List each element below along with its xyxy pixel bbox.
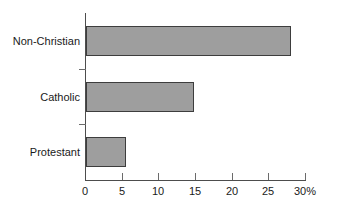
x-axis-tick-label: 5 — [119, 185, 125, 198]
x-axis-tick-label: 10 — [152, 185, 164, 198]
category-label: Protestant — [30, 146, 80, 159]
y-axis-tick — [79, 69, 86, 70]
x-axis-tick — [85, 173, 86, 181]
bar — [86, 26, 291, 56]
x-axis-tick — [268, 173, 269, 180]
x-axis-tick-label: 15 — [189, 185, 201, 198]
x-axis-line — [85, 180, 306, 181]
bar — [86, 82, 194, 112]
bar — [86, 137, 126, 167]
category-label: Catholic — [40, 91, 80, 104]
x-axis-tick — [158, 173, 159, 180]
x-axis-tick-label: 0 — [82, 185, 88, 198]
y-axis-tick — [79, 124, 86, 125]
x-axis-tick — [232, 173, 233, 180]
x-axis-tick-label: 30% — [294, 185, 316, 198]
bar-chart: Non-ChristianCatholicProtestant 05101520… — [0, 0, 340, 209]
x-axis-tick — [122, 173, 123, 180]
x-axis-tick-label: 20 — [226, 185, 238, 198]
x-axis-tick — [195, 173, 196, 180]
x-axis-tick — [305, 173, 306, 180]
category-label: Non-Christian — [13, 35, 80, 48]
x-axis-tick-label: 25 — [262, 185, 274, 198]
